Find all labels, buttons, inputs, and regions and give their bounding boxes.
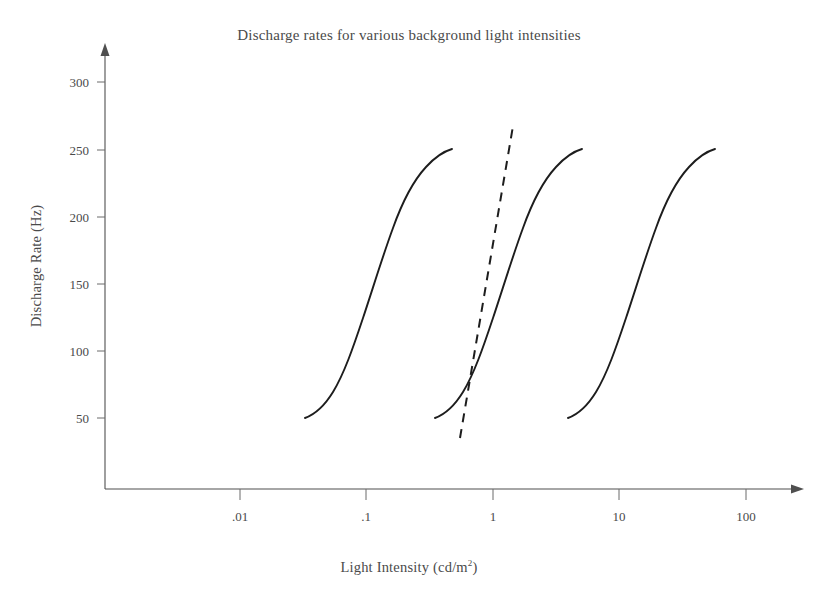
chart-title: Discharge rates for various background l… [237,27,580,43]
x-axis-title-main: Light Intensity (cd/m [340,559,468,576]
chart-canvas: Discharge rates for various background l… [0,0,818,590]
x-axis-title: Light Intensity (cd/m2) [340,558,477,576]
x-tick-label-0-01: .01 [232,509,248,524]
y-tick-label-150: 150 [70,277,90,292]
y-tick-label-250: 250 [70,143,90,158]
y-tick-label-50: 50 [76,411,89,426]
x-axis-ticks [240,489,746,500]
y-tick-label-300: 300 [70,75,90,90]
y-axis [101,43,110,489]
x-tick-label-1: 1 [490,509,497,524]
x-tick-label-100: 100 [736,509,756,524]
curve-series-2 [435,149,582,418]
x-axis [105,485,804,494]
y-axis-title: Discharge Rate (Hz) [28,205,45,328]
x-tick-label-0-1: .1 [361,509,371,524]
y-axis-ticks [97,82,105,418]
y-tick-label-100: 100 [70,344,90,359]
chart-figure: Discharge rates for various background l… [0,0,818,590]
x-tick-label-10: 10 [613,509,626,524]
x-axis-title-close: ) [473,559,478,576]
curve-series-3 [568,149,715,418]
curve-series-1 [305,149,452,418]
svg-text:Light Intensity (cd/m2): Light Intensity (cd/m2) [340,558,477,576]
y-tick-label-200: 200 [70,210,90,225]
